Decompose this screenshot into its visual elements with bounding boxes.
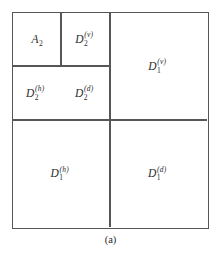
label-detail-level-1-horizontal: D1(h): [51, 168, 73, 180]
region-detail-level-1-diagonal: D1(d): [111, 121, 207, 227]
label-base: D: [148, 167, 157, 179]
region-detail-level-1-vertical: D1(v): [111, 13, 207, 120]
label-superscript: (h): [60, 165, 69, 174]
label-base: D: [75, 87, 84, 99]
label-subscript: 1: [59, 173, 63, 182]
figure-root: A2 D2(v) D2(h) D2(d) D1(v) D1(h) D1(d) (…: [0, 0, 221, 256]
label-detail-level-1-diagonal: D1(d): [148, 168, 170, 180]
label-subscript: 1: [157, 173, 161, 182]
label-superscript: (v): [84, 30, 93, 39]
region-detail-level-2-horizontal: D2(h): [13, 67, 61, 120]
label-superscript: (h): [35, 84, 44, 93]
region-detail-level-2-diagonal: D2(d): [62, 67, 110, 120]
label-subscript: 2: [39, 39, 43, 48]
label-detail-level-1-vertical: D1(v): [148, 61, 169, 73]
label-subscript: 1: [157, 66, 161, 75]
region-detail-level-1-horizontal: D1(h): [13, 121, 110, 227]
label-base: D: [26, 87, 35, 99]
label-base: D: [51, 167, 60, 179]
label-base: D: [75, 33, 84, 45]
label-detail-level-2-vertical: D2(v): [75, 34, 96, 46]
label-detail-level-2-diagonal: D2(d): [75, 88, 97, 100]
label-subscript: 2: [35, 93, 39, 102]
label-approximation-level-2: A2: [31, 34, 42, 46]
label-base: D: [148, 60, 157, 72]
label-superscript: (d): [84, 84, 93, 93]
label-superscript: (v): [157, 57, 166, 66]
figure-caption: (a): [0, 234, 221, 245]
label-subscript: 2: [84, 39, 88, 48]
region-approximation-level-2: A2: [13, 13, 61, 66]
region-detail-level-2-vertical: D2(v): [62, 13, 110, 66]
label-superscript: (d): [157, 165, 166, 174]
wavelet-decomposition-square: A2 D2(v) D2(h) D2(d) D1(v) D1(h) D1(d): [12, 12, 209, 229]
label-base: A: [31, 33, 38, 45]
label-subscript: 2: [84, 93, 88, 102]
label-detail-level-2-horizontal: D2(h): [26, 88, 48, 100]
